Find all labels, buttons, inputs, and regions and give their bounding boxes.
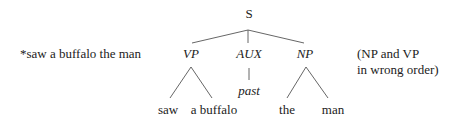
node-s: S	[245, 7, 252, 21]
edge-s-vp	[192, 30, 248, 43]
node-np: NP	[297, 47, 314, 61]
note-line-1: (NP and VP	[357, 47, 419, 61]
example-sentence: *saw a buffalo the man	[20, 47, 141, 61]
leaf-a-buffalo: a buffalo	[191, 103, 237, 117]
leaf-man: man	[322, 103, 344, 117]
edge-vp-buffalo	[191, 67, 212, 98]
edge-vp-saw	[170, 67, 191, 98]
node-aux: AUX	[236, 47, 261, 61]
edge-np-the	[287, 67, 306, 98]
note-line-2: in wrong order)	[357, 63, 439, 77]
node-vp: VP	[183, 47, 199, 61]
leaf-the: the	[279, 103, 295, 117]
leaf-saw: saw	[158, 103, 178, 117]
leaf-past: past	[238, 84, 260, 98]
edge-np-man	[306, 67, 328, 98]
edge-s-np	[248, 30, 304, 43]
